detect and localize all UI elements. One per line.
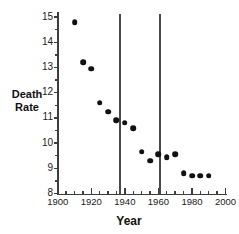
x-tick-minor bbox=[183, 191, 184, 195]
y-tick-label: 14 bbox=[31, 37, 53, 47]
y-tick-major bbox=[54, 168, 59, 169]
data-point bbox=[181, 171, 187, 177]
x-tick-label: 1900 bbox=[40, 197, 76, 207]
data-point bbox=[114, 118, 120, 124]
x-tick-minor bbox=[166, 191, 167, 195]
data-point bbox=[206, 173, 212, 179]
data-point bbox=[156, 152, 162, 158]
data-point bbox=[130, 125, 136, 131]
y-tick-minor bbox=[55, 130, 59, 131]
y-tick-label: 9 bbox=[31, 163, 53, 173]
x-tick-major bbox=[225, 188, 226, 194]
x-tick-label: 2000 bbox=[208, 197, 239, 207]
y-tick-label: 11 bbox=[31, 112, 53, 122]
x-tick-minor bbox=[208, 191, 209, 195]
data-point bbox=[189, 173, 195, 179]
x-tick-major bbox=[191, 188, 192, 194]
data-point bbox=[147, 158, 153, 164]
x-tick-minor bbox=[200, 191, 201, 195]
y-tick-minor bbox=[55, 180, 59, 181]
data-point bbox=[122, 120, 128, 126]
x-tick-minor bbox=[82, 191, 83, 195]
y-tick-label: 12 bbox=[31, 87, 53, 97]
x-tick-label: 1960 bbox=[140, 197, 176, 207]
y-tick-minor bbox=[55, 54, 59, 55]
x-tick-minor bbox=[216, 191, 217, 195]
y-tick-label: 10 bbox=[31, 138, 53, 148]
x-tick-minor bbox=[141, 191, 142, 195]
x-tick-label: 1980 bbox=[174, 197, 210, 207]
y-tick-major bbox=[54, 92, 59, 93]
data-point bbox=[105, 109, 111, 115]
y-tick-minor bbox=[55, 79, 59, 80]
data-point bbox=[72, 19, 78, 25]
data-point bbox=[198, 173, 204, 179]
x-tick-minor bbox=[65, 191, 66, 195]
death-rate-scatter-chart: Death Rate 89101112131415 19001920194019… bbox=[0, 0, 238, 234]
x-axis-title: Year bbox=[94, 214, 164, 228]
data-point bbox=[97, 100, 103, 106]
x-tick-major bbox=[124, 188, 125, 194]
x-tick-label: 1920 bbox=[73, 197, 109, 207]
y-tick-minor bbox=[55, 29, 59, 30]
data-point bbox=[172, 152, 178, 158]
y-tick-major bbox=[54, 16, 59, 17]
x-tick-minor bbox=[74, 191, 75, 195]
y-tick-label: 13 bbox=[31, 62, 53, 72]
y-tick-minor bbox=[55, 155, 59, 156]
data-point bbox=[89, 66, 95, 72]
data-point bbox=[164, 154, 170, 160]
x-tick-major bbox=[57, 188, 58, 194]
y-tick-major bbox=[54, 142, 59, 143]
data-point bbox=[139, 149, 145, 155]
x-tick-minor bbox=[107, 191, 108, 195]
y-tick-major bbox=[54, 42, 59, 43]
data-point bbox=[80, 60, 86, 66]
x-tick-minor bbox=[174, 191, 175, 195]
x-tick-minor bbox=[116, 191, 117, 195]
x-tick-minor bbox=[133, 191, 134, 195]
y-tick-label: 15 bbox=[31, 12, 53, 22]
x-tick-minor bbox=[149, 191, 150, 195]
x-tick-label: 1940 bbox=[107, 197, 143, 207]
y-tick-major bbox=[54, 117, 59, 118]
y-tick-major bbox=[54, 67, 59, 68]
reference-vline bbox=[119, 14, 121, 194]
x-tick-minor bbox=[99, 191, 100, 195]
reference-vline bbox=[159, 14, 161, 194]
x-tick-major bbox=[91, 188, 92, 194]
y-tick-minor bbox=[55, 105, 59, 106]
